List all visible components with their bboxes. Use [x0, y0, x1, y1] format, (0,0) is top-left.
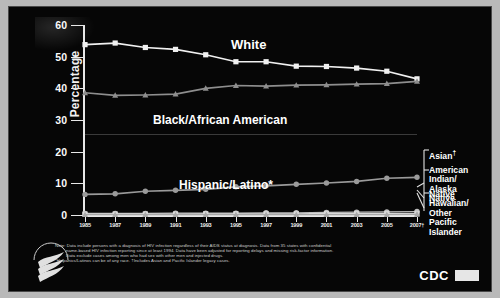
callout-asian: Asian†: [429, 148, 456, 161]
data-point: [384, 69, 389, 74]
series-label-white: White: [231, 37, 266, 52]
callout-leader-asian: [417, 183, 424, 187]
footnote-line-4: *Hispanics/Latinos can be of any race.: [55, 258, 130, 263]
data-point: [173, 188, 178, 193]
data-point: [82, 42, 87, 47]
callout-asian-dagger: †: [452, 149, 456, 156]
data-point: [113, 40, 118, 45]
series-label-black-african-american: Black/African American: [153, 113, 287, 127]
data-point: [324, 64, 329, 69]
callout-asian-text: Asian: [429, 151, 452, 161]
data-point: [414, 175, 419, 180]
footnote-line-5: †Includes Asian and Pacific Islander leg…: [131, 258, 230, 263]
slide-canvas: Percentage 0102030405060 198519871989199…: [8, 6, 492, 292]
callout-native-hawaiian-other-pacific-islander: Native Hawaiian/Other PacificIslander: [429, 190, 479, 237]
data-point: [203, 52, 208, 57]
series-black-african-american: [82, 78, 420, 97]
callout-leader-nhopi: [417, 193, 424, 208]
data-point: [263, 59, 268, 64]
callout-nhopi-line1: Native Hawaiian/: [429, 189, 469, 208]
data-point: [112, 191, 117, 196]
footnote-block: Note: Data include persons with a diagno…: [55, 243, 455, 263]
data-point: [82, 192, 87, 197]
data-point: [294, 64, 299, 69]
data-point: [143, 45, 148, 50]
data-point: [173, 47, 178, 52]
data-point: [324, 180, 329, 185]
data-point: [354, 179, 359, 184]
callout-nhopi-line2: Other Pacific: [429, 208, 457, 227]
data-point: [354, 65, 359, 70]
chart-plot-area: Percentage 0102030405060 198519871989199…: [31, 15, 479, 231]
cdc-wordmark: CDC: [419, 268, 449, 283]
data-point: [233, 59, 238, 64]
callout-aian-line1: American Indian/: [429, 165, 468, 184]
data-point: [384, 176, 389, 181]
callout-nhopi-line3: Islander: [429, 227, 462, 237]
cdc-logo-mark: [455, 270, 479, 281]
data-point: [294, 182, 299, 187]
series-label-hispanic-latino: Hispanic/Latino*: [179, 178, 273, 192]
data-point: [143, 189, 148, 194]
